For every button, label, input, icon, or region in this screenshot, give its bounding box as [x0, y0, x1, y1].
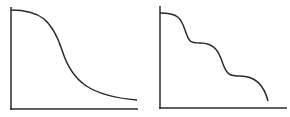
left-sigmoid-curve [11, 10, 137, 100]
figure [0, 0, 290, 117]
right-panel [159, 6, 287, 109]
left-panel [10, 7, 138, 110]
diagram-canvas [0, 0, 290, 117]
right-stepwise-curve [160, 13, 268, 101]
